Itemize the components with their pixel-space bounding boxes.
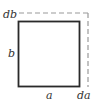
solid-rectangle [19, 22, 80, 87]
rectangle-diagram: db b a da [0, 0, 93, 103]
dashed-enlarged-outline [19, 13, 88, 87]
label-db: db [3, 8, 17, 21]
label-b: b [8, 47, 15, 60]
label-a: a [46, 89, 53, 102]
label-da: da [77, 89, 91, 102]
